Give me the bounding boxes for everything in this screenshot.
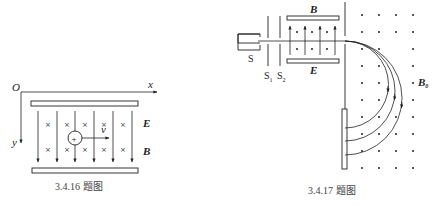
deflection-b0-label: B0 xyxy=(417,76,428,89)
electric-field-lines xyxy=(38,111,132,162)
caption: 3.4.17 题图 xyxy=(308,185,356,196)
figure-3-4-16: O x y × × × × × × × × × × + xyxy=(11,78,157,192)
selector-magnetic-dots xyxy=(296,31,328,50)
source-label: S xyxy=(248,53,254,64)
svg-text:×: × xyxy=(64,146,70,154)
svg-text:×: × xyxy=(45,146,51,154)
selector-b-label: B xyxy=(309,3,317,15)
selector-electric-field xyxy=(290,26,335,55)
svg-text:×: × xyxy=(64,121,70,129)
selector-bottom-plate xyxy=(287,59,339,63)
charge-sign: + xyxy=(72,134,77,144)
magnetic-field-label: B xyxy=(142,145,150,157)
slit-2-label: S2 xyxy=(277,70,286,83)
detector-plate xyxy=(342,109,347,169)
velocity-label: v xyxy=(101,123,106,135)
figure-3-4-17: S S1 S2 B E xyxy=(238,2,428,196)
y-axis-label: y xyxy=(11,136,17,148)
slit-1-label: S1 xyxy=(264,70,273,83)
svg-text:×: × xyxy=(120,121,126,129)
electric-field-label: E xyxy=(142,117,150,129)
x-axis-label: x xyxy=(147,78,153,90)
svg-text:×: × xyxy=(82,146,88,154)
ion-source xyxy=(238,34,260,43)
svg-text:×: × xyxy=(45,121,51,129)
selector-top-plate xyxy=(287,16,339,20)
top-plate xyxy=(31,101,138,106)
deflection-magnetic-field-dots xyxy=(361,14,414,169)
svg-text:×: × xyxy=(120,146,126,154)
origin-label: O xyxy=(12,81,20,93)
caption: 3.4.16 题图 xyxy=(55,181,103,192)
svg-text:×: × xyxy=(101,146,107,154)
ion-trajectories xyxy=(345,41,402,155)
selector-e-label: E xyxy=(309,64,317,76)
bottom-plate xyxy=(32,168,138,173)
svg-text:×: × xyxy=(82,121,88,129)
figure-canvas: O x y × × × × × × × × × × + xyxy=(0,0,438,205)
